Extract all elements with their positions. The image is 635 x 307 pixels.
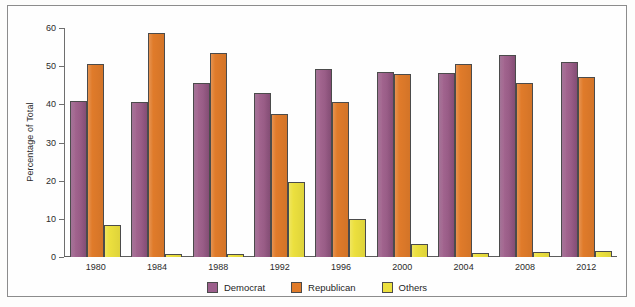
legend-item-democrat[interactable]: Democrat <box>207 282 265 293</box>
y-axis-tick-label: 40 <box>46 99 56 109</box>
legend-swatch-icon <box>207 282 218 293</box>
y-axis-tick-mark <box>59 143 64 144</box>
bar-groups: 198019841988199219962000200420082012 <box>65 28 617 257</box>
bar-republican-1980[interactable] <box>87 64 104 258</box>
x-axis-tick-label: 2008 <box>515 262 535 272</box>
bar-group: 1988 <box>188 28 249 257</box>
y-axis-tick-label: 30 <box>46 138 56 148</box>
y-axis-tick-mark <box>59 104 64 105</box>
plot-inner: 0102030405060 19801984198819921996200020… <box>64 28 617 256</box>
chart-frame: Percentage of Total 0102030405060 198019… <box>7 5 627 297</box>
x-axis-tick-label: 1980 <box>86 262 106 272</box>
bar-republican-1988[interactable] <box>210 53 227 257</box>
y-axis-title: Percentage of Total <box>25 102 35 181</box>
bar-democrat-2008[interactable] <box>499 55 516 257</box>
bar-republican-2012[interactable] <box>578 77 595 257</box>
y-axis-tick-mark <box>59 219 64 220</box>
y-axis-tick-label: 10 <box>46 214 56 224</box>
plot-area: 0102030405060 19801984198819921996200020… <box>64 28 617 256</box>
bar-others-2000[interactable] <box>411 244 428 257</box>
x-axis-tick-label: 1996 <box>331 262 351 272</box>
legend-label: Republican <box>308 282 356 293</box>
bar-group-bars <box>377 72 428 257</box>
bar-group-bars <box>131 33 182 257</box>
bar-group: 1984 <box>126 28 187 257</box>
bar-republican-1996[interactable] <box>332 102 349 257</box>
y-axis-tick-label: 50 <box>46 61 56 71</box>
legend-item-republican[interactable]: Republican <box>291 282 356 293</box>
bar-others-1984[interactable] <box>165 254 182 257</box>
bar-group: 1992 <box>249 28 310 257</box>
legend-item-others[interactable]: Others <box>382 282 428 293</box>
bar-democrat-2000[interactable] <box>377 72 394 257</box>
y-axis-tick-mark <box>59 28 64 29</box>
y-axis-tick-label: 20 <box>46 176 56 186</box>
bar-democrat-1988[interactable] <box>193 83 210 257</box>
bar-others-1992[interactable] <box>288 182 305 257</box>
bar-democrat-1984[interactable] <box>131 102 148 257</box>
bar-group-bars <box>254 93 305 257</box>
y-axis-tick-label: 60 <box>46 23 56 33</box>
y-axis-tick-mark <box>59 181 64 182</box>
bar-group: 2012 <box>556 28 617 257</box>
bar-group-bars <box>438 64 489 258</box>
bar-group-bars <box>70 64 121 258</box>
bar-democrat-2012[interactable] <box>561 62 578 257</box>
bar-democrat-2004[interactable] <box>438 73 455 257</box>
x-axis-tick-label: 2004 <box>454 262 474 272</box>
x-axis-tick-label: 2000 <box>392 262 412 272</box>
chart-figure: Percentage of Total 0102030405060 198019… <box>0 0 635 307</box>
x-axis-tick-label: 2012 <box>576 262 596 272</box>
bar-group: 2004 <box>433 28 494 257</box>
bar-others-2012[interactable] <box>595 251 612 257</box>
x-axis-tick-label: 1988 <box>208 262 228 272</box>
bar-republican-1984[interactable] <box>148 33 165 257</box>
bar-others-1980[interactable] <box>104 225 121 257</box>
legend-swatch-icon <box>382 282 393 293</box>
y-axis-tick-mark <box>59 257 64 258</box>
bar-others-2008[interactable] <box>533 252 550 257</box>
bar-others-1988[interactable] <box>227 254 244 257</box>
bar-republican-2000[interactable] <box>394 74 411 257</box>
bar-group-bars <box>193 53 244 257</box>
y-axis-tick-mark <box>59 66 64 67</box>
bar-republican-1992[interactable] <box>271 114 288 257</box>
bar-group: 1996 <box>310 28 371 257</box>
bar-group: 1980 <box>65 28 126 257</box>
bar-group-bars <box>315 69 366 257</box>
legend-label: Democrat <box>224 282 265 293</box>
y-axis-tick-label: 0 <box>51 252 56 262</box>
bar-republican-2004[interactable] <box>455 64 472 258</box>
bar-group: 2000 <box>372 28 433 257</box>
bar-group-bars <box>499 55 550 257</box>
bar-others-1996[interactable] <box>349 219 366 257</box>
bar-others-2004[interactable] <box>472 253 489 257</box>
bar-democrat-1980[interactable] <box>70 101 87 257</box>
bar-group: 2008 <box>494 28 555 257</box>
bar-group-bars <box>561 62 612 257</box>
bar-republican-2008[interactable] <box>516 83 533 257</box>
chart-legend: DemocratRepublicanOthers <box>8 282 626 293</box>
bar-democrat-1996[interactable] <box>315 69 332 257</box>
x-axis-tick-label: 1984 <box>147 262 167 272</box>
legend-swatch-icon <box>291 282 302 293</box>
x-axis-tick-label: 1992 <box>270 262 290 272</box>
bar-democrat-1992[interactable] <box>254 93 271 257</box>
legend-label: Others <box>399 282 428 293</box>
